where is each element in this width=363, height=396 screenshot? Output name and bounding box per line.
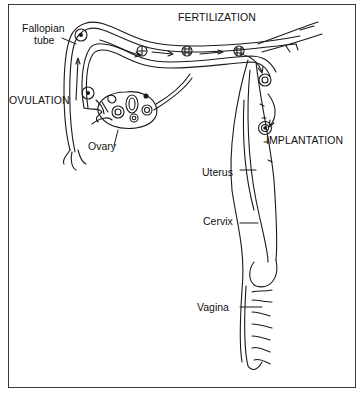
- uterus-cervix-vagina: [231, 60, 277, 369]
- label-implantation: IMPLANTATION: [266, 134, 343, 146]
- egg-ovulated: [82, 87, 94, 99]
- label-vagina: Vagina: [197, 301, 229, 313]
- movement-arrows: [76, 40, 275, 127]
- label-ovulation: OVULATION: [9, 94, 70, 106]
- label-fallopian-tube-line2: tube: [34, 34, 54, 46]
- reproductive-anatomy-illustration: [0, 0, 363, 396]
- label-fertilization: FERTILIZATION: [178, 11, 256, 23]
- label-ovary: Ovary: [88, 140, 116, 152]
- label-fallopian-tube-line1: Fallopian: [22, 22, 65, 34]
- label-uterus: Uterus: [202, 166, 233, 178]
- egg-fertilization: [75, 29, 87, 41]
- label-cervix: Cervix: [203, 215, 233, 227]
- ovary: [96, 74, 192, 128]
- dividing-embryos: [137, 46, 272, 135]
